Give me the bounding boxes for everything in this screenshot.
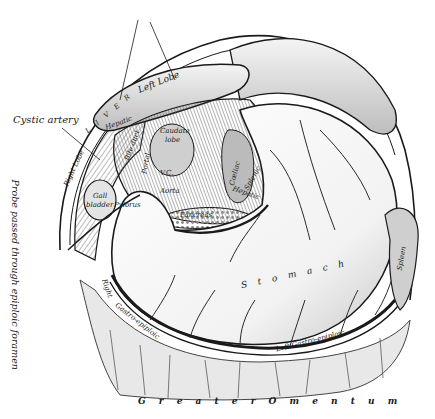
illustration	[0, 0, 435, 419]
label-greater-omentum: G r e a t e r O m e n t u m	[138, 397, 402, 406]
label-caudate-lobe: Caudate	[160, 128, 190, 135]
label-vena-cava: V.C.	[160, 170, 173, 177]
anatomy-figure: Left Lobe L I V E R Cystic artery Right …	[0, 0, 435, 419]
label-pancreas: Pancreas	[180, 212, 212, 219]
label-gall-bladder: Gall	[93, 193, 107, 200]
label-probe: Probe passed through epiploic foramen	[10, 180, 20, 370]
label-aorta: Aorta	[160, 188, 180, 195]
label-gall-bladder-2: bladder	[86, 202, 113, 209]
label-caudate-lobe-2: lobe	[165, 137, 180, 144]
label-cystic-artery: Cystic artery	[13, 115, 79, 125]
label-pylorus: Pylorus	[114, 202, 141, 209]
